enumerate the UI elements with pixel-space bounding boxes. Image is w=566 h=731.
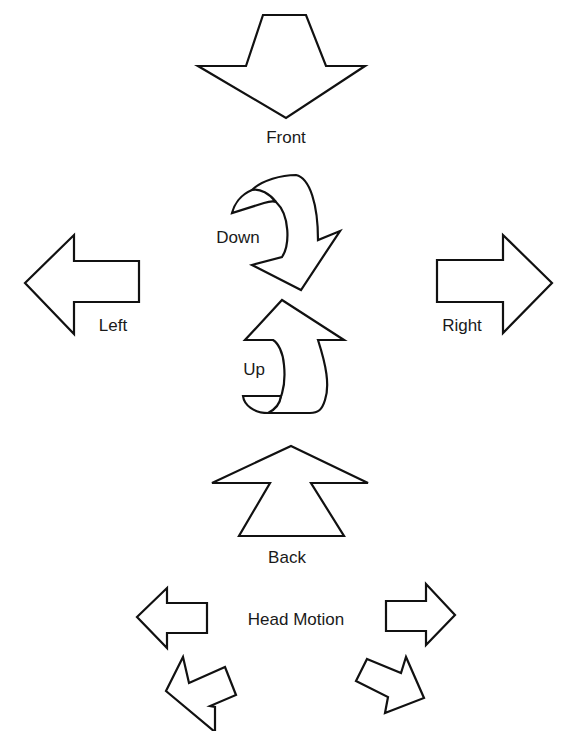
head-down-left-arrow-icon <box>166 657 236 731</box>
down-label: Down <box>216 229 259 246</box>
left-label: Left <box>99 317 127 334</box>
head-right-arrow-icon <box>386 584 455 645</box>
up-curl-arrow-icon <box>243 300 344 413</box>
front-arrow-icon <box>198 15 365 118</box>
head-motion-label: Head Motion <box>248 611 344 628</box>
front-label: Front <box>266 129 306 146</box>
back-arrow-icon <box>212 446 368 536</box>
right-label: Right <box>442 317 482 334</box>
head-down-right-arrow-icon <box>356 657 424 713</box>
head-left-arrow-icon <box>137 588 207 648</box>
back-label: Back <box>268 549 306 566</box>
up-label: Up <box>243 361 265 378</box>
